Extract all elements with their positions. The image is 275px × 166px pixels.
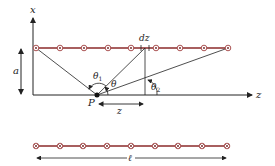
current-in-icon xyxy=(104,143,110,149)
current-in-icon xyxy=(128,143,134,149)
current-in-icon xyxy=(199,143,205,149)
current-out-icon xyxy=(105,45,111,51)
current-out-icon xyxy=(225,45,231,51)
theta2-label: θ2 xyxy=(151,82,160,93)
current-in-icon xyxy=(33,143,39,149)
top-wire-current-elements xyxy=(33,45,231,51)
current-out-icon xyxy=(177,45,183,51)
line-to-wire-start xyxy=(36,48,97,95)
length-label: ℓ xyxy=(128,153,132,163)
dz-label: dz xyxy=(139,33,150,43)
current-out-icon xyxy=(201,45,207,51)
wire-field-diagram: x z a dz θ1 θ θ2 P z xyxy=(0,0,275,166)
current-out-icon xyxy=(33,45,39,51)
current-out-icon xyxy=(153,45,159,51)
x-axis-label: x xyxy=(30,4,36,15)
a-label: a xyxy=(13,65,19,76)
point-p-label: P xyxy=(87,97,95,108)
current-in-icon xyxy=(80,143,86,149)
bottom-wire-current-elements xyxy=(33,143,230,149)
current-in-icon xyxy=(57,143,63,149)
point-p xyxy=(95,93,100,98)
theta-label: θ xyxy=(111,79,117,89)
theta1-label: θ1 xyxy=(93,71,102,82)
theta-arc xyxy=(105,87,108,95)
line-to-dz xyxy=(97,48,145,95)
z-distance-label: z xyxy=(116,106,122,116)
line-to-wire-end xyxy=(97,48,228,95)
current-in-icon xyxy=(175,143,181,149)
z-axis-label: z xyxy=(255,89,262,100)
current-out-icon xyxy=(57,45,63,51)
current-in-icon xyxy=(152,143,158,149)
current-in-icon xyxy=(224,143,230,149)
current-out-icon xyxy=(128,45,134,51)
current-out-icon xyxy=(81,45,87,51)
